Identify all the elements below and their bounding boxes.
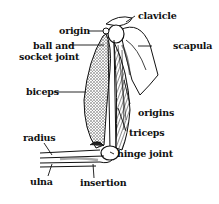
label-clavicle: clavicle [138, 11, 177, 21]
label-origins: origins [138, 108, 174, 118]
label-origin: origin [59, 26, 90, 36]
label-insertion: insertion [80, 178, 126, 188]
label-triceps: triceps [129, 128, 164, 138]
label-ball-socket-line2: socket joint [19, 52, 79, 62]
label-biceps: biceps [26, 87, 59, 97]
label-ulna: ulna [30, 177, 53, 187]
label-radius: radius [23, 133, 55, 143]
label-hinge-joint: hinge joint [117, 149, 173, 159]
label-scapula: scapula [173, 41, 212, 51]
arm-illustration [0, 0, 219, 204]
label-ball-socket-line1: ball and [33, 41, 74, 51]
arm-muscle-diagram: origin ball and socket joint biceps radi… [0, 0, 219, 204]
